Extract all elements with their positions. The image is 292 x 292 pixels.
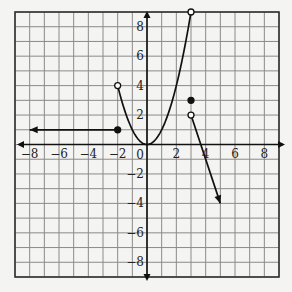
ray-arrow-icon	[30, 126, 38, 133]
x-axis-right-arrow-icon	[278, 141, 285, 148]
y-tick-label: −2	[126, 167, 144, 181]
x-tick-label: 8	[261, 147, 269, 161]
y-tick-label: 4	[136, 79, 144, 93]
x-tick-label: 2	[173, 147, 181, 161]
y-tick-label: 8	[136, 20, 144, 34]
isolated-point	[188, 97, 194, 103]
y-tick-label: −4	[126, 196, 144, 210]
endpoint-open	[188, 112, 194, 118]
y-tick-label: −6	[126, 226, 144, 240]
piece-2-parabola	[118, 12, 191, 145]
endpoint-closed	[115, 127, 121, 133]
ray-arrow-icon	[214, 195, 221, 204]
x-tick-label: −2	[109, 147, 127, 161]
piecewise-function-graph: −8−6−4−224688642−2−4−6−80	[0, 0, 292, 292]
y-tick-label: 6	[136, 49, 144, 63]
origin-label: 0	[136, 148, 144, 162]
x-tick-label: −6	[50, 147, 68, 161]
y-tick-label: 2	[136, 108, 144, 122]
endpoint-open	[115, 83, 121, 89]
y-tick-label: −8	[126, 255, 144, 269]
x-tick-label: −4	[79, 147, 97, 161]
endpoint-open	[188, 9, 194, 15]
x-tick-label: −8	[21, 147, 39, 161]
x-tick-label: 6	[231, 147, 239, 161]
